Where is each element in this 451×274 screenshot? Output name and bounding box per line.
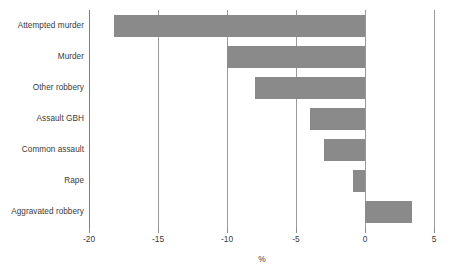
value-axis: -20-15-10-505 [89, 228, 434, 246]
tick-mark [89, 228, 90, 233]
tick-mark [434, 228, 435, 233]
category-label: Assault GBH [0, 114, 84, 124]
bar [365, 201, 412, 223]
x-tick-label: -15 [152, 234, 164, 244]
category-label: Attempted murder [0, 21, 84, 31]
x-tick-label: -20 [83, 234, 95, 244]
gridline-neg10 [227, 10, 228, 228]
bar-chart-figure: Attempted murderMurderOther robberyAssau… [0, 0, 451, 274]
category-label: Aggravated robbery [0, 207, 84, 217]
x-tick-label: 5 [432, 234, 437, 244]
plot-area [89, 10, 434, 228]
tick-mark [296, 228, 297, 233]
bar [227, 46, 365, 68]
category-label: Other robbery [0, 83, 84, 93]
category-label: Murder [0, 52, 84, 62]
tick-mark [227, 228, 228, 233]
gridline-neg15 [158, 10, 159, 228]
tick-mark [158, 228, 159, 233]
bar [324, 139, 365, 161]
x-tick-label: -10 [221, 234, 233, 244]
tick-mark [365, 228, 366, 233]
x-tick-label: 0 [363, 234, 368, 244]
bar [353, 170, 365, 192]
category-label: Common assault [0, 145, 84, 155]
gridline-neg5 [296, 10, 297, 228]
gridline-neg20 [89, 10, 90, 228]
gridline-5 [434, 10, 435, 228]
bar [255, 77, 365, 99]
x-tick-label: -5 [292, 234, 299, 244]
category-axis: Attempted murderMurderOther robberyAssau… [0, 10, 84, 228]
bar [310, 108, 365, 130]
category-label: Rape [0, 176, 84, 186]
bar [114, 15, 365, 37]
x-axis-title-label: % [258, 254, 265, 264]
gridline-0 [365, 10, 366, 228]
